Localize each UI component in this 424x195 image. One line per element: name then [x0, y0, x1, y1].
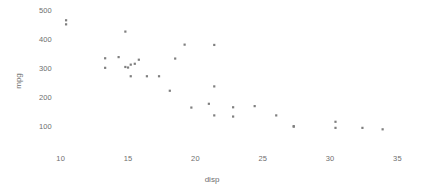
- data-point: [213, 114, 215, 116]
- data-point: [65, 23, 67, 25]
- data-points-group: [65, 19, 384, 130]
- data-point: [104, 57, 106, 59]
- x-tick-label-25: 25: [258, 155, 267, 163]
- data-point: [124, 30, 126, 32]
- x-tick-label-20: 20: [191, 155, 200, 163]
- data-point: [275, 114, 277, 116]
- data-point: [213, 44, 215, 46]
- data-point: [124, 66, 126, 68]
- x-tick-label-10: 10: [56, 155, 65, 163]
- x-tick-label-30: 30: [326, 155, 335, 163]
- y-tick-label-500: 500: [39, 7, 52, 15]
- data-point: [213, 85, 215, 87]
- data-point: [184, 44, 186, 46]
- data-point: [169, 90, 171, 92]
- data-point: [293, 126, 295, 128]
- data-point: [208, 103, 210, 105]
- data-point: [190, 106, 192, 108]
- plot-area: [0, 0, 424, 195]
- data-point: [130, 75, 132, 77]
- data-point: [334, 121, 336, 123]
- data-point: [334, 127, 336, 129]
- data-point: [127, 66, 129, 68]
- x-tick-label-15: 15: [124, 155, 133, 163]
- data-point: [138, 59, 140, 61]
- y-tick-label-300: 300: [39, 65, 52, 73]
- y-tick-label-100: 100: [39, 123, 52, 131]
- data-point: [254, 105, 256, 107]
- data-point: [118, 56, 120, 58]
- data-point: [174, 57, 176, 59]
- y-axis-title: mpg: [15, 73, 23, 89]
- data-point: [146, 75, 148, 77]
- data-point: [232, 115, 234, 117]
- x-axis-title: disp: [205, 176, 220, 184]
- data-point: [361, 127, 363, 129]
- y-tick-label-200: 200: [39, 94, 52, 102]
- data-point: [104, 67, 106, 69]
- data-point: [65, 19, 67, 21]
- x-tick-label-35: 35: [393, 155, 402, 163]
- y-tick-label-400: 400: [39, 36, 52, 44]
- data-point: [134, 63, 136, 65]
- data-point: [158, 75, 160, 77]
- data-point: [130, 64, 132, 66]
- data-point: [232, 106, 234, 108]
- data-point: [382, 128, 384, 130]
- scatter-chart: 100200300400500 101520253035 mpg disp: [0, 0, 424, 195]
